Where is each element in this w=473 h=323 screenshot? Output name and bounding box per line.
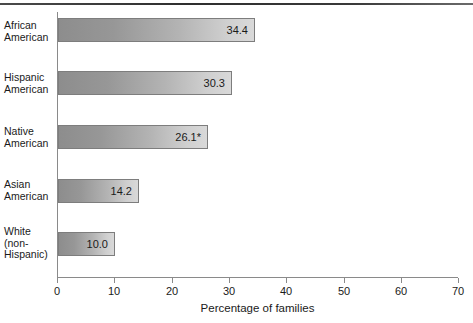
category-label-asian-american: Asian American	[4, 179, 54, 202]
x-axis-tick-label: 40	[266, 285, 306, 297]
x-axis-tick	[344, 278, 345, 283]
category-label-line: Hispanic	[4, 72, 54, 84]
bar-value-label: 30.3	[204, 77, 231, 89]
category-label-line: White	[4, 226, 54, 238]
category-label-line: American	[4, 32, 54, 44]
x-axis-tick-label: 10	[94, 285, 134, 297]
x-axis-tick	[229, 278, 230, 283]
bar-chart: 0 10 20 30 40 50 60 70 African American …	[0, 0, 473, 323]
bar-value-label: 34.4	[227, 24, 254, 36]
x-axis-tick	[57, 278, 58, 283]
category-label-line: Asian	[4, 179, 54, 191]
category-label-white-non-hispanic: White (non- Hispanic)	[4, 226, 54, 261]
bar-white-non-hispanic: 10.0	[58, 232, 115, 256]
bar-value-label: 14.2	[111, 185, 138, 197]
x-axis-tick	[458, 278, 459, 283]
x-axis-title: Percentage of families	[57, 302, 458, 314]
bar-hispanic-american: 30.3	[58, 71, 232, 95]
x-axis-tick-label: 50	[324, 285, 364, 297]
category-label-line: American	[4, 138, 54, 150]
category-label-native-american: Native American	[4, 126, 54, 149]
category-label-line: Hispanic)	[4, 249, 54, 261]
x-axis-tick-label: 60	[381, 285, 421, 297]
category-label-line: American	[4, 84, 54, 96]
bar-native-american: 26.1*	[58, 125, 208, 149]
x-axis-tick	[172, 278, 173, 283]
bar-asian-american: 14.2	[58, 179, 139, 203]
category-label-line: Native	[4, 126, 54, 138]
bar-african-american: 34.4	[58, 18, 255, 42]
x-axis-tick-label: 0	[37, 285, 77, 297]
x-axis-tick	[401, 278, 402, 283]
x-axis-line	[57, 277, 458, 278]
category-label-african-american: African American	[4, 20, 54, 43]
x-axis-tick-label: 30	[209, 285, 249, 297]
x-axis-tick-label: 20	[152, 285, 192, 297]
category-label-hispanic-american: Hispanic American	[4, 72, 54, 95]
bar-value-label: 26.1*	[175, 131, 207, 143]
category-label-line: American	[4, 191, 54, 203]
bar-value-label: 10.0	[87, 238, 114, 250]
category-label-line: African	[4, 20, 54, 32]
x-axis-tick-label: 70	[438, 285, 473, 297]
x-axis-tick	[286, 278, 287, 283]
x-axis-tick	[114, 278, 115, 283]
